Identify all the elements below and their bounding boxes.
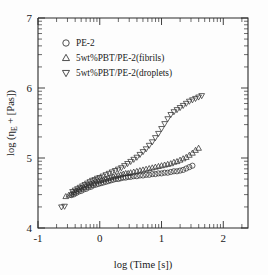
data-point-circle <box>181 167 186 172</box>
data-point-triangle-up <box>196 145 202 150</box>
data-layer <box>59 94 205 210</box>
data-point-triangle-up <box>183 154 189 159</box>
y-tick-label: 7 <box>27 12 33 24</box>
chart-canvas: -10124567log (Time [s])log (ηE + [Pas])P… <box>0 0 268 275</box>
x-tick-label: 0 <box>97 232 103 244</box>
legend-label: 5wt%PBT/PE-2(fibrils) <box>76 53 164 64</box>
y-tick-label: 4 <box>27 222 33 234</box>
data-point-circle <box>156 171 161 176</box>
y-tick-label: 5 <box>27 152 33 164</box>
x-tick-label: 2 <box>221 232 227 244</box>
data-point-triangle-down <box>162 122 168 127</box>
data-point-circle <box>143 172 148 177</box>
legend-label: PE-2 <box>76 38 95 48</box>
figure-container: -10124567log (Time [s])log (ηE + [Pas])P… <box>0 0 268 275</box>
data-point-circle <box>150 172 155 177</box>
legend-item: 5wt%PBT/PE-2(droplets) <box>62 68 172 79</box>
legend-item: PE-2 <box>63 38 95 48</box>
data-point-circle <box>171 169 176 174</box>
data-point-triangle-down <box>186 99 192 104</box>
x-tick-label: 1 <box>159 232 165 244</box>
data-point-triangle-down <box>149 140 155 145</box>
legend-item: 5wt%PBT/PE-2(fibrils) <box>62 53 164 64</box>
data-point-triangle-down <box>146 143 152 148</box>
svg-text:log (ηE + [Pas]): log (ηE + [Pas]) <box>5 90 19 156</box>
y-tick-label: 6 <box>27 82 33 94</box>
data-point-circle <box>187 165 192 170</box>
legend-marker-circle <box>63 40 69 46</box>
series-3 <box>59 94 205 210</box>
legend-marker-triangle-up <box>62 54 69 60</box>
y-axis-ticks: 4567 <box>27 12 249 234</box>
data-point-triangle-down <box>165 117 171 122</box>
x-axis-title: log (Time [s]) <box>114 259 173 271</box>
x-axis-ticks: -1012 <box>33 18 241 244</box>
x-tick-label: -1 <box>33 232 42 244</box>
data-point-triangle-up <box>193 147 199 152</box>
legend-marker-triangle-down <box>62 70 69 76</box>
legend: PE-25wt%PBT/PE-2(fibrils)5wt%PBT/PE-2(dr… <box>62 38 172 79</box>
data-point-circle <box>162 170 167 175</box>
data-point-circle <box>184 166 189 171</box>
y-axis-title: log (ηE + [Pas]) <box>5 90 19 156</box>
data-point-triangle-down <box>159 127 165 132</box>
legend-label: 5wt%PBT/PE-2(droplets) <box>76 68 172 79</box>
data-point-circle <box>190 163 195 168</box>
data-point-triangle-up <box>186 152 192 157</box>
